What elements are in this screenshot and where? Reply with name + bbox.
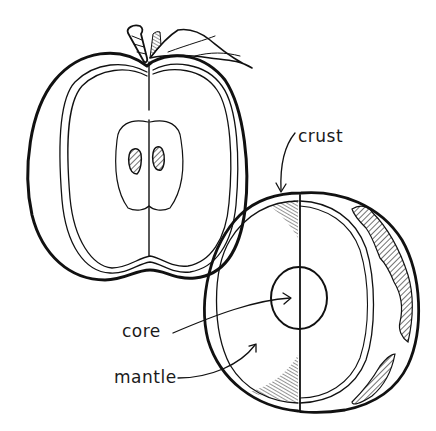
core-pointer [173, 298, 290, 333]
crust-pointer [281, 133, 295, 190]
earth-core [271, 267, 327, 329]
label-crust: crust [298, 128, 343, 145]
apple-figure [28, 25, 252, 280]
label-core: core [122, 323, 161, 340]
apple-seed-left [129, 149, 142, 174]
apple-seed-right [153, 147, 165, 170]
crust-shading-upper [352, 206, 412, 342]
earth-figure [173, 133, 419, 412]
illustration [0, 0, 436, 431]
label-mantle: mantle [114, 369, 177, 386]
diagram-canvas: crust core mantle [0, 0, 436, 431]
